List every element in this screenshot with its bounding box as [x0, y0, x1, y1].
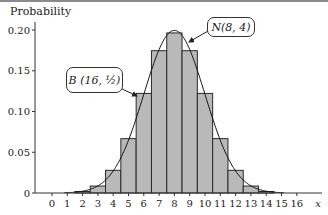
bar — [213, 139, 228, 193]
bar — [136, 93, 151, 193]
x-tick-label: 5 — [125, 198, 131, 209]
normal-label-text: N(8, 4) — [211, 21, 250, 34]
y-tick-label: 0.05 — [8, 147, 30, 158]
x-tick-label: 12 — [229, 198, 242, 209]
bar — [90, 186, 105, 193]
x-tick-label: 13 — [245, 198, 258, 209]
x-tick-label: 11 — [214, 198, 227, 209]
bar — [243, 186, 258, 193]
x-axis-label: x — [315, 198, 321, 209]
binomial-label: B (16, ½) — [66, 67, 123, 93]
y-tick-label: 0.15 — [8, 65, 30, 76]
bar — [167, 33, 182, 193]
bar — [121, 139, 136, 193]
bar — [228, 170, 243, 193]
bar — [197, 93, 212, 193]
x-tick-label: 1 — [64, 198, 70, 209]
y-tick-label: 0.20 — [8, 25, 30, 36]
bar — [182, 51, 197, 193]
chart-plot: 00.050.100.150.2001234567891011121314151… — [0, 0, 328, 215]
x-tick-label: 8 — [171, 198, 177, 209]
x-tick-label: 10 — [199, 198, 212, 209]
x-tick-label: 0 — [49, 198, 55, 209]
x-tick-label: 2 — [79, 198, 85, 209]
y-tick-label: 0 — [24, 188, 30, 199]
bar — [151, 51, 166, 193]
x-tick-label: 3 — [95, 198, 101, 209]
x-tick-label: 6 — [141, 198, 147, 209]
y-tick-label: 0.10 — [8, 106, 30, 117]
x-tick-label: 15 — [275, 198, 288, 209]
normal-arrow — [189, 31, 208, 42]
x-tick-label: 4 — [110, 198, 116, 209]
bar — [106, 170, 121, 193]
binomial-label-text: B (16, ½) — [69, 74, 121, 87]
x-tick-label: 9 — [187, 198, 193, 209]
x-tick-label: 14 — [260, 198, 273, 209]
x-tick-label: 7 — [156, 198, 162, 209]
normal-label: N(8, 4) — [207, 17, 255, 37]
x-tick-label: 16 — [290, 198, 303, 209]
